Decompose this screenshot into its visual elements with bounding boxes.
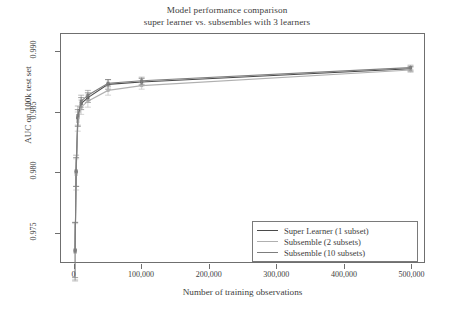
chart-title-main: Model performance comparison — [0, 5, 454, 17]
legend-item[interactable]: Super Learner (1 subset) — [257, 225, 412, 236]
y-axis-tick-label: 0.980 — [29, 154, 38, 188]
legend-item-label: Super Learner (1 subset) — [284, 226, 369, 236]
chart-title: Model performance comparison super learn… — [0, 5, 454, 28]
x-axis-tick-label: 400,000 — [316, 270, 372, 279]
x-axis-tick-label: 100,000 — [113, 270, 169, 279]
legend-color-swatch — [257, 252, 278, 254]
x-axis-tick-label: 200,000 — [181, 270, 237, 279]
x-axis-tick-mark — [344, 264, 345, 269]
x-axis-tick-mark — [276, 264, 277, 269]
x-axis-tick-mark — [74, 264, 75, 269]
y-axis-tick-label: 0.975 — [29, 214, 38, 248]
x-axis-tick-mark — [411, 264, 412, 269]
legend-item[interactable]: Subsemble (10 subsets) — [257, 247, 412, 258]
y-axis-tick-label: 0.990 — [29, 33, 38, 67]
x-axis-tick-mark — [209, 264, 210, 269]
legend-color-swatch — [257, 230, 278, 232]
x-axis-tick-mark — [141, 264, 142, 269]
x-axis-tick-label: 0 — [46, 270, 102, 279]
chart-subtitle: super learner vs. subsembles with 3 lear… — [0, 17, 454, 29]
chart-figure: Model performance comparison super learn… — [0, 0, 454, 318]
legend-item[interactable]: Subsemble (2 subsets) — [257, 236, 412, 247]
x-axis-tick-label: 500,000 — [383, 270, 439, 279]
y-axis-tick-label: 0.985 — [29, 93, 38, 127]
x-axis-label: Number of training observations — [60, 287, 425, 297]
x-axis-tick-label: 300,000 — [248, 270, 304, 279]
legend-color-swatch — [257, 241, 278, 243]
legend-item-label: Subsemble (2 subsets) — [284, 237, 361, 247]
legend-item-label: Subsemble (10 subsets) — [284, 248, 365, 258]
chart-legend: Super Learner (1 subset) Subsemble (2 su… — [252, 221, 418, 262]
